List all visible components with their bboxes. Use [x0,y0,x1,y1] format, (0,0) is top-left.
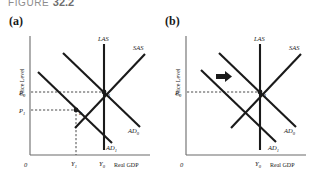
as-ad-diagram-b: Price Level Real GDP 0 P0 Y0 LAS SAS AD0… [156,0,312,184]
origin-label-a: 0 [24,161,28,168]
p1-tick-a: P1 [18,107,25,116]
ad1-label-b: AD1 [267,144,279,153]
ad1-curve-b [201,70,276,142]
sas-label-b: SAS [289,44,300,51]
point-a-label-a: a [107,92,110,98]
ad1-label-a: AD1 [105,144,117,153]
panel-b: (b) Price Level Real GDP 0 P0 Y0 [156,0,312,184]
x-axis-title-a: Real GDP [114,162,139,168]
equilibrium-point-a [102,90,107,95]
ad0-label-a: AD0 [127,127,140,136]
as-ad-diagram-a: Price Level Real GDP 0 P0 P1 Y1 Y0 LAS S… [0,0,156,184]
x-axis-title-b: Real GDP [270,162,295,168]
ad0-curve-b [219,53,296,127]
panel-a: (a) Price Level Real GDP 0 P0 P1 Y1 Y0 [0,0,156,184]
point-b-label-a: b [79,110,82,116]
point-a-label-b: a [263,92,266,98]
sas-curve-b [231,54,301,128]
y1-tick-a: Y1 [71,160,77,169]
ad0-curve-a [63,53,140,127]
y0-tick-b: Y0 [255,160,262,169]
equilibrium-point-b [74,108,79,113]
origin-label-b: 0 [180,161,184,168]
equilibrium-point-a-b [258,90,263,95]
ad1-curve-a [38,72,112,143]
y0-tick-a: Y0 [99,160,106,169]
las-label-a: LAS [97,35,110,42]
ad0-label-b: AD0 [283,127,296,136]
las-label-b: LAS [253,35,266,42]
sas-label-a: SAS [133,44,144,51]
leftward-shift-arrow [216,71,232,82]
